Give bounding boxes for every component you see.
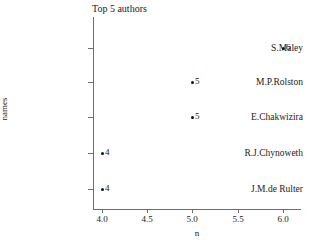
x-tick-label-5-0: 5.0 [172,214,212,225]
data-point-e-chakwizira[interactable] [191,116,194,119]
y-tick-label-s-maley: S.Maley [223,43,311,53]
x-tick-mark [238,209,239,213]
y-tick-label-r-j-chynoweth: R.J.Chynoweth [223,148,311,158]
x-tick-mark [192,209,193,213]
x-tick-mark [102,209,103,213]
x-tick-mark [283,209,284,213]
data-point-m-p-rolston[interactable] [191,81,194,84]
data-point-label-r-j-chynoweth: 4 [105,147,110,157]
y-tick-mark [88,82,93,83]
y-axis-label: names [0,89,9,129]
data-point-r-j-chynoweth[interactable] [101,152,104,155]
data-point-label-e-chakwizira: 5 [195,111,200,121]
data-point-label-m-p-rolston: 5 [195,76,200,86]
x-tick-label-6-0: 6.0 [263,214,303,225]
chart-title: Top 5 authors [92,3,147,15]
x-axis-label: n [93,228,301,239]
x-tick-label-5-5: 5.5 [218,214,258,225]
x-axis-line [93,209,301,210]
y-tick-mark [88,189,93,190]
x-tick-label-4-0: 4.0 [82,214,122,225]
data-point-s-maley[interactable] [282,47,285,50]
y-tick-mark [88,117,93,118]
x-tick-mark [147,209,148,213]
data-point-label-s-maley: 6 [286,42,291,52]
y-tick-label-j-m-de-rulter: J.M.de Rulter [223,184,311,194]
y-tick-mark [88,48,93,49]
y-tick-label-m-p-rolston: M.P.Rolston [223,77,311,87]
data-point-j-m-de-rulter[interactable] [101,188,104,191]
x-tick-label-4-5: 4.5 [127,214,167,225]
chart-container: Top 5 authors names S.Maley M.P.Rolston … [0,0,311,243]
y-tick-mark [88,153,93,154]
data-point-label-j-m-de-rulter: 4 [105,183,110,193]
y-tick-label-e-chakwizira: E.Chakwizira [223,112,311,122]
y-axis-line [93,17,94,209]
